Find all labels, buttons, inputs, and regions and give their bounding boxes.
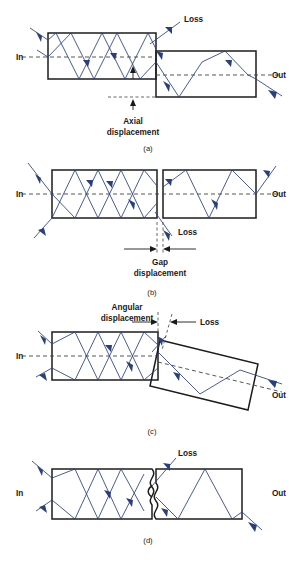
label-out-b: Out	[272, 190, 286, 199]
label-axial-line1: Axial	[123, 117, 143, 126]
ray-bounce-left-secondary-a	[37, 33, 156, 79]
figure-canvas: In Out Loss Axial displacement (a)	[0, 0, 304, 562]
label-gap-line2: displacement	[134, 269, 187, 278]
irregularity-detail-d	[148, 486, 152, 497]
ray-bounce-right-d	[156, 469, 262, 530]
label-in-d: In	[16, 489, 23, 498]
label-axial-line2: displacement	[107, 128, 160, 137]
label-in-a: In	[16, 53, 23, 62]
ray-out-a	[202, 51, 282, 96]
panel-id-a: (a)	[143, 144, 153, 153]
label-out-d: Out	[272, 489, 286, 498]
fiber-right-core-a	[156, 51, 256, 97]
panel-d-surface-irregularity: In Out Loss (d)	[16, 449, 286, 545]
label-loss-a: Loss	[184, 15, 204, 24]
fiber-left-core-d	[52, 469, 154, 519]
panel-id-c: (c)	[148, 427, 157, 436]
dim-gap-left-head-b	[150, 246, 157, 252]
label-out-c: Out	[272, 391, 286, 400]
panel-c-angular-displacement: In Out Loss Angular displacement (c)	[16, 303, 286, 436]
label-angular-line1: Angular	[112, 303, 144, 312]
ray-bounce-left-a	[56, 33, 156, 79]
ray-bounce-right-b	[163, 166, 276, 218]
dim-loss-arrow-head-c	[170, 319, 177, 325]
label-in-b: In	[16, 190, 23, 199]
label-loss-d: Loss	[178, 449, 198, 458]
dim-axial-lower-head-a	[130, 99, 136, 106]
panel-id-b: (b)	[147, 288, 157, 297]
ray-bounce-left-secondary-c	[36, 332, 158, 380]
label-in-c: In	[16, 352, 23, 361]
ray-arrowheads-d	[37, 463, 257, 532]
panel-a-axial-displacement: In Out Loss Axial displacement (a)	[16, 15, 286, 153]
label-gap-line1: Gap	[152, 258, 168, 267]
guide-angular-tilted-c	[162, 314, 172, 350]
ray-bounce-right-a	[156, 62, 202, 97]
label-loss-b: Loss	[178, 228, 198, 237]
panel-b-gap-displacement: In Out Loss Gap displacement (b)	[16, 163, 286, 297]
ray-bounce-left-c	[38, 331, 158, 380]
dim-gap-right-head-b	[163, 246, 170, 252]
ray-bounce-left-b	[28, 163, 157, 218]
fiber-right-core-tilted-c	[150, 340, 258, 410]
label-out-a: Out	[272, 71, 286, 80]
fiber-misalignment-loss-figure: In Out Loss Axial displacement (a)	[0, 0, 304, 562]
label-angular-line2: displacement	[101, 314, 154, 323]
label-loss-c: Loss	[200, 318, 220, 327]
panel-id-d: (d)	[143, 536, 153, 545]
